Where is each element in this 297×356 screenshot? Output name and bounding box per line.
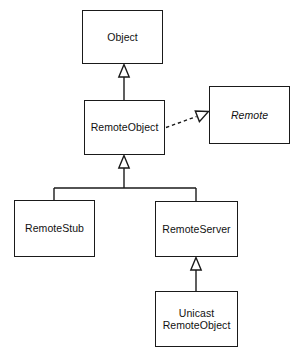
uml-class-remote-object[interactable]: RemoteObject [84,100,165,155]
uml-class-remote[interactable]: Remote [209,86,290,144]
uml-class-name-remote: Remote [231,109,268,122]
uml-class-diagram: Object RemoteObject Remote RemoteStub Re… [0,0,297,356]
realization-dashed-line [166,117,197,128]
uml-class-name-object: Object [107,31,138,44]
uml-class-name-unicast-remote-object: Unicast RemoteObject [163,307,231,332]
connector-remoteobject-to-remote [166,111,209,128]
hollow-triangle-arrowhead-icon [119,156,129,169]
uml-class-object[interactable]: Object [82,10,163,64]
hollow-triangle-arrowhead-icon [191,258,201,271]
connector-remoteobject-to-object [119,65,129,101]
hollow-triangle-arrowhead-icon [195,111,208,122]
uml-class-unicast-remote-object[interactable]: Unicast RemoteObject [155,291,238,347]
uml-class-remote-stub[interactable]: RemoteStub [14,200,95,257]
uml-class-name-remote-object: RemoteObject [91,121,159,134]
uml-class-name-remote-stub: RemoteStub [25,222,84,235]
uml-class-name-remote-server: RemoteServer [162,223,230,236]
connector-subclasses-to-remoteobject [54,156,196,202]
hollow-triangle-arrowhead-icon [119,65,129,78]
uml-class-remote-server[interactable]: RemoteServer [155,201,238,257]
connector-unicast-to-remoteserver [191,258,201,292]
